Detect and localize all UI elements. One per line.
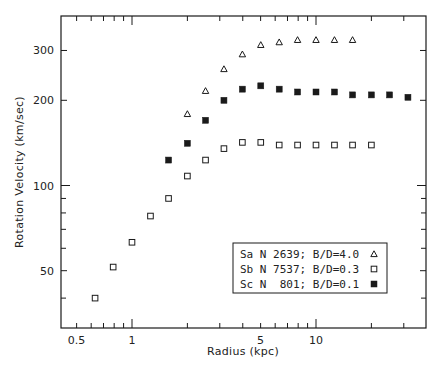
legend-entry-sc: Sc N 801; B/D=0.1 [240,278,359,291]
open-square-marker-icon [110,264,116,270]
filled-square-marker-icon [405,94,411,100]
x-axis-ticks: 0.51510 [68,16,404,347]
filled-square-marker-icon [368,92,374,98]
filled-square-marker-icon [371,281,377,287]
filled-square-marker-icon [387,92,393,98]
open-square-marker-icon [148,213,154,219]
filled-square-marker-icon [313,89,319,95]
open-square-marker-icon [295,142,301,148]
filled-square-marker-icon [221,97,227,103]
open-square-marker-icon [240,140,246,146]
legend-entry-sa: Sa N 2639; B/D=4.0 [240,248,359,261]
open-square-marker-icon [371,266,377,272]
y-tick-label: 200 [33,94,54,107]
open-square-marker-icon [350,142,356,148]
legend-entry-sb: Sb N 7537; B/D=0.3 [240,263,359,276]
triangle-marker-icon [202,88,208,94]
rotation-curve-chart: 0.51510 50100200300 Radius (kpc) Rotatio… [0,0,439,367]
x-tick-label: 1 [129,334,136,347]
open-square-marker-icon [313,142,319,148]
open-square-marker-icon [185,173,191,179]
legend: Sa N 2639; B/D=4.0 Sb N 7537; B/D=0.3 Sc… [233,243,387,293]
x-axis-label: Radius (kpc) [207,345,279,358]
filled-square-marker-icon [203,117,209,123]
filled-square-marker-icon [276,86,282,92]
y-tick-label: 50 [40,265,54,278]
triangle-marker-icon [184,111,190,117]
triangle-marker-icon [239,51,245,57]
open-square-marker-icon [332,142,338,148]
series-sa [184,37,356,117]
filled-square-marker-icon [331,89,337,95]
y-axis-label: Rotation Velocity (km/sec) [13,96,26,248]
filled-square-marker-icon [350,92,356,98]
y-tick-label: 300 [33,44,54,57]
triangle-marker-icon [349,37,355,43]
open-square-marker-icon [221,146,227,152]
filled-square-marker-icon [295,89,301,95]
filled-square-marker-icon [166,157,172,163]
open-square-marker-icon [166,196,172,202]
open-square-marker-icon [203,157,209,163]
legend-markers [371,251,377,287]
triangle-marker-icon [258,42,264,48]
open-square-marker-icon [92,295,98,301]
filled-square-marker-icon [239,86,245,92]
triangle-marker-icon [276,39,282,45]
triangle-marker-icon [331,37,337,43]
open-square-marker-icon [369,142,375,148]
triangle-marker-icon [294,37,300,43]
triangle-marker-icon [313,37,319,43]
y-tick-label: 100 [33,180,54,193]
x-tick-label: 10 [309,334,323,347]
open-square-marker-icon [129,239,135,245]
x-tick-label: 0.5 [68,334,86,347]
filled-square-marker-icon [184,140,190,146]
filled-square-marker-icon [258,83,264,89]
open-square-marker-icon [276,142,282,148]
open-square-marker-icon [258,140,264,146]
series-sc [166,83,411,163]
triangle-marker-icon [221,66,227,72]
